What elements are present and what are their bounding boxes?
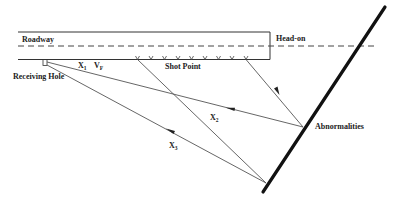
receiving-hole-label: Receiving Hole <box>13 72 65 81</box>
shot-point-marks <box>136 56 249 60</box>
shot-point-icon <box>217 56 221 60</box>
shot-point-icon <box>190 56 194 60</box>
arrow-up-left-icon <box>166 129 175 135</box>
head-on-label: Head-on <box>276 34 306 43</box>
shot-point-icon <box>244 56 248 60</box>
x3-label: X3 <box>169 141 178 151</box>
shot-point-icon <box>163 56 167 60</box>
shot-point-icon <box>136 56 140 60</box>
shot-point-icon <box>176 56 180 60</box>
reflected-ray-x2 <box>47 62 303 127</box>
roadway-label: Roadway <box>22 35 54 44</box>
x1-label: X1 <box>78 61 87 71</box>
receiving-hole-marker <box>43 60 47 66</box>
incident-ray-far <box>138 60 267 184</box>
shot-point-label: Shot Point <box>165 62 201 71</box>
ray-paths <box>47 60 303 184</box>
shot-point-icon <box>149 56 153 60</box>
shot-point-icon <box>230 56 234 60</box>
x2-label: X2 <box>210 113 219 123</box>
vf-label: VF <box>94 61 104 71</box>
arrow-left-icon <box>226 108 235 111</box>
reflected-ray-x3 <box>47 65 266 183</box>
seismic-detection-diagram: Roadway Head-on Receiving Hole Shot Poin… <box>0 0 395 202</box>
shot-point-icon <box>203 56 207 60</box>
incident-ray-near <box>246 60 303 128</box>
abnormalities-label: Abnormalities <box>315 122 364 131</box>
